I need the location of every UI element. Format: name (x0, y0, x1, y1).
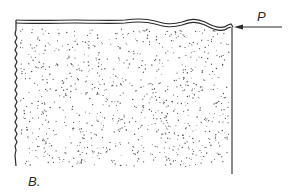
stipple-fill (20, 28, 230, 167)
panel-label: B. (28, 174, 40, 189)
diagram-canvas: P B. (0, 0, 292, 196)
force-label: P (257, 9, 266, 24)
arrow-head-icon (234, 25, 243, 30)
force-arrow (234, 25, 282, 30)
left-jagged-edge (15, 20, 17, 166)
buckled-top-layer (16, 19, 233, 30)
